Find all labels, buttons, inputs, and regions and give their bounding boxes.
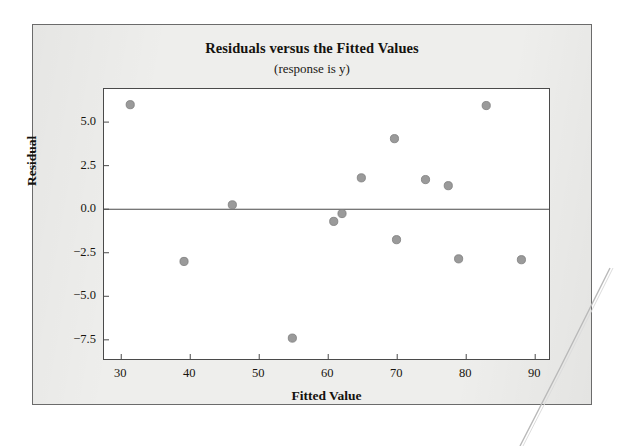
data-point [288,334,296,342]
plot-area [103,88,550,360]
x-tick-text: 70 [376,366,416,381]
data-point [444,182,452,190]
y-tick-label: 2.5 [56,159,96,171]
data-point [517,256,525,264]
y-tick-label: 0.0 [56,202,96,214]
data-point [338,209,346,217]
chart-subtitle: (response is y) [33,61,591,77]
y-tick-text: −2.5 [73,246,96,258]
data-point [390,135,398,143]
data-point-group [126,101,525,343]
data-point [228,201,236,209]
data-point [330,217,338,225]
y-tick-text: 0.0 [80,202,96,214]
x-tick-text: 60 [307,366,347,381]
data-point [455,255,463,263]
x-axis-title: Fitted Value [103,388,550,404]
data-point [357,174,365,182]
y-tick-text: −7.5 [73,333,96,345]
x-tick-text: 90 [514,366,554,381]
y-tick-label: −7.5 [56,333,96,345]
x-tick-text: 40 [169,366,209,381]
y-tick-text: 5.0 [80,115,96,127]
data-point [126,101,134,109]
chart-title: Residuals versus the Fitted Values [33,40,591,57]
data-point [180,257,188,265]
x-axis-tick-labels: 30405060708090 [103,366,550,384]
y-axis-title: Residual [24,136,40,186]
y-tick-text: −5.0 [73,289,96,301]
y-tick-label: 5.0 [56,115,96,127]
data-point [392,236,400,244]
data-point [482,101,490,109]
x-tick-text: 50 [238,366,278,381]
data-point [421,175,429,183]
scanned-page: Residuals versus the Fitted Values (resp… [0,0,625,446]
y-axis-tick-labels: 5.02.50.0−2.5−5.0−7.5 [56,88,96,360]
y-tick-label: −2.5 [56,246,96,258]
scatter-plot-canvas [104,89,549,359]
y-tick-label: −5.0 [56,289,96,301]
y-tick-text: 2.5 [80,159,96,171]
x-tick-text: 30 [100,366,140,381]
x-tick-text: 80 [445,366,485,381]
